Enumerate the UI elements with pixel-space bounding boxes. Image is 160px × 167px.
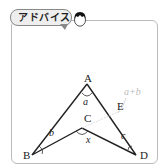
angle-a-label: a xyxy=(83,96,88,107)
angle-c-label: c xyxy=(121,130,125,141)
point-e-label: E xyxy=(117,100,124,112)
point-a-label: A xyxy=(84,72,92,84)
point-b-label: B xyxy=(23,149,30,161)
point-c-label: C xyxy=(84,112,91,124)
point-d-label: D xyxy=(140,149,148,161)
angle-b-label: b xyxy=(49,127,54,138)
angle-a-plus-b-label: a+b xyxy=(124,86,141,97)
geometry-figure xyxy=(0,0,160,167)
angle-x-label: x xyxy=(86,134,90,145)
